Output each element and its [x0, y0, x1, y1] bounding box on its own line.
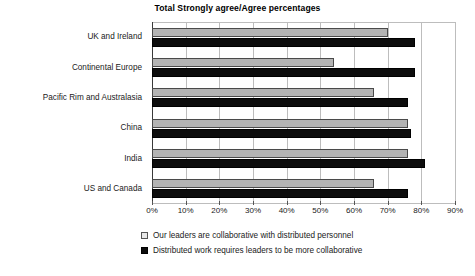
x-tick-label: 20%	[211, 206, 227, 215]
x-tick-label: 90%	[447, 206, 463, 215]
x-tick-mark	[186, 201, 187, 205]
legend-item[interactable]: Our leaders are collaborative with distr…	[0, 228, 475, 243]
bar	[152, 179, 374, 188]
bar	[152, 149, 408, 158]
x-tick-label: 70%	[380, 206, 396, 215]
x-tick-label: 60%	[346, 206, 362, 215]
x-tick-label: 30%	[245, 206, 261, 215]
x-tick-mark	[388, 201, 389, 205]
x-tick-mark	[287, 201, 288, 205]
bar-group	[152, 149, 455, 168]
bar-group	[152, 58, 455, 77]
bar	[152, 58, 334, 67]
y-axis-label: Pacific Rim and Australasia	[43, 93, 142, 103]
x-tick-label: 50%	[312, 206, 328, 215]
x-axis-tick-labels: 0%10%20%30%40%50%60%70%80%90%	[152, 206, 455, 220]
legend-label: Our leaders are collaborative with distr…	[153, 231, 353, 240]
bar	[152, 68, 415, 77]
bar-group	[152, 119, 455, 138]
bar-group	[152, 28, 455, 47]
bar	[152, 119, 408, 128]
bar	[152, 88, 374, 97]
x-tick-label: 0%	[146, 206, 158, 215]
x-tick-mark	[421, 201, 422, 205]
y-axis-category-labels: UK and IrelandContinental EuropePacific …	[0, 22, 148, 204]
x-tick-mark	[320, 201, 321, 205]
x-tick-label: 80%	[413, 206, 429, 215]
bar	[152, 159, 425, 168]
y-axis-label: UK and Ireland	[87, 32, 142, 42]
chart-legend: Our leaders are collaborative with distr…	[0, 228, 475, 258]
chart-container: Total Strongly agree/Agree percentages U…	[0, 0, 475, 276]
x-tick-mark	[152, 201, 153, 205]
gridline-90pct	[455, 22, 456, 204]
x-tick-mark	[253, 201, 254, 205]
bar	[152, 129, 411, 138]
y-axis-label: Continental Europe	[72, 63, 142, 73]
bar	[152, 98, 408, 107]
bar-group	[152, 88, 455, 107]
bars-layer	[152, 22, 455, 204]
x-tick-mark	[354, 201, 355, 205]
x-tick-mark	[455, 201, 456, 205]
bar	[152, 28, 388, 37]
legend-label: Distributed work requires leaders to be …	[153, 246, 362, 255]
bar-group	[152, 179, 455, 198]
legend-swatch-icon	[141, 232, 148, 239]
x-tick-mark	[219, 201, 220, 205]
y-axis-label: China	[121, 123, 142, 133]
legend-swatch-icon	[141, 247, 148, 254]
x-tick-label: 40%	[279, 206, 295, 215]
y-axis-label: India	[124, 154, 142, 164]
x-tick-label: 10%	[178, 206, 194, 215]
legend-item[interactable]: Distributed work requires leaders to be …	[0, 243, 475, 258]
y-axis-label: US and Canada	[84, 184, 142, 194]
bar	[152, 189, 408, 198]
chart-title: Total Strongly agree/Agree percentages	[0, 3, 475, 13]
plot-area	[152, 22, 455, 204]
bar	[152, 38, 415, 47]
